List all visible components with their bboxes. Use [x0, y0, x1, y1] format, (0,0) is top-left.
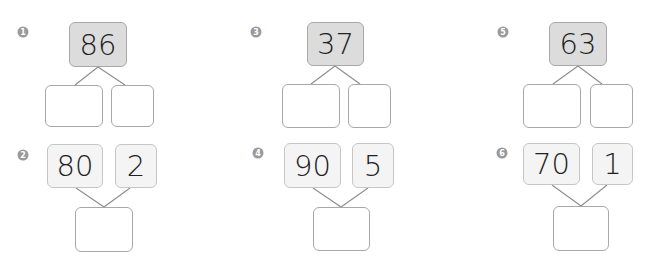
problem-number-badge: 1 [18, 27, 29, 38]
part-number-box-2: 2 [115, 144, 157, 188]
part-number-box-2: 1 [592, 143, 633, 185]
problem-number-badge: 2 [18, 150, 29, 161]
part-number-box-1: 70 [523, 143, 580, 185]
part-number-box-1: 80 [47, 144, 103, 188]
answer-box-part-1[interactable] [282, 84, 340, 128]
problem-number-badge: 4 [253, 148, 264, 159]
answer-box-part-2[interactable] [111, 85, 154, 127]
part-number-box-2: 5 [352, 143, 394, 188]
whole-number-box: 86 [69, 22, 127, 67]
answer-box-part-1[interactable] [523, 84, 581, 128]
answer-box-whole[interactable] [553, 206, 609, 251]
answer-box-whole[interactable] [313, 207, 370, 251]
whole-number-box: 37 [307, 22, 364, 66]
whole-number-box: 63 [549, 22, 607, 66]
answer-box-part-1[interactable] [45, 85, 103, 127]
answer-box-part-2[interactable] [348, 84, 391, 128]
problem-number-badge: 3 [251, 27, 262, 38]
answer-box-whole[interactable] [75, 207, 133, 252]
problem-number-badge: 5 [498, 27, 509, 38]
part-number-box-1: 90 [284, 143, 341, 188]
problem-number-badge: 6 [497, 148, 508, 159]
answer-box-part-2[interactable] [590, 84, 633, 128]
